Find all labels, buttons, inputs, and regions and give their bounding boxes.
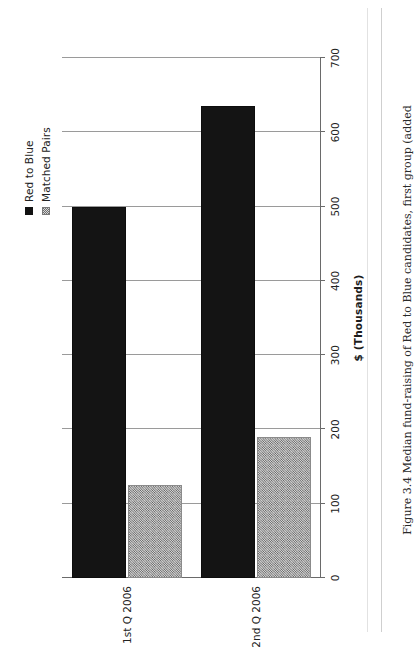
value-axis-title: $ (Thousands) xyxy=(352,58,364,578)
value-tick-500 xyxy=(320,206,325,207)
value-tick-label-400: 400 xyxy=(329,271,341,291)
chart-legend: Red to Blue Matched Pairs xyxy=(22,127,53,215)
value-tick-700 xyxy=(320,57,325,58)
value-tick-400 xyxy=(320,280,325,281)
value-tick-label-200: 200 xyxy=(329,419,341,439)
plot-area xyxy=(62,58,320,578)
legend-item-matched-pairs: Matched Pairs xyxy=(39,127,53,215)
value-axis-line xyxy=(320,58,321,578)
plot-background xyxy=(62,58,320,578)
value-tick-label-700: 700 xyxy=(329,48,341,68)
gridline-700 xyxy=(62,57,320,58)
value-tick-label-300: 300 xyxy=(329,345,341,365)
category-label-1st-q-2006: 1st Q 2006 xyxy=(121,586,133,651)
value-tick-0 xyxy=(320,577,325,578)
value-tick-300 xyxy=(320,354,325,355)
value-tick-label-500: 500 xyxy=(329,197,341,217)
legend-swatch-solid-icon xyxy=(25,207,33,215)
value-tick-200 xyxy=(320,428,325,429)
value-tick-100 xyxy=(320,503,325,504)
legend-label-matched-pairs: Matched Pairs xyxy=(41,127,52,202)
legend-label-red-to-blue: Red to Blue xyxy=(24,140,35,202)
gridline-600 xyxy=(62,131,320,132)
value-tick-label-600: 600 xyxy=(329,122,341,142)
bar-1st-q-2006-red-to-blue xyxy=(72,207,126,578)
figure-caption: Figure 3.4 Median fund-raising of Red to… xyxy=(399,0,417,640)
legend-item-red-to-blue: Red to Blue xyxy=(22,127,36,215)
bar-1st-q-2006-matched-pairs xyxy=(128,485,182,578)
value-tick-600 xyxy=(320,131,325,132)
page-edge-rule-secondary xyxy=(367,8,368,632)
bar-2nd-q-2006-red-to-blue xyxy=(201,106,255,578)
bar-2nd-q-2006-matched-pairs xyxy=(257,437,311,578)
category-label-2nd-q-2006: 2nd Q 2006 xyxy=(250,586,262,651)
value-tick-label-0: 0 xyxy=(329,575,341,582)
legend-swatch-hatch-icon xyxy=(42,207,50,215)
page-edge-rule xyxy=(381,8,382,632)
value-tick-label-100: 100 xyxy=(329,494,341,514)
